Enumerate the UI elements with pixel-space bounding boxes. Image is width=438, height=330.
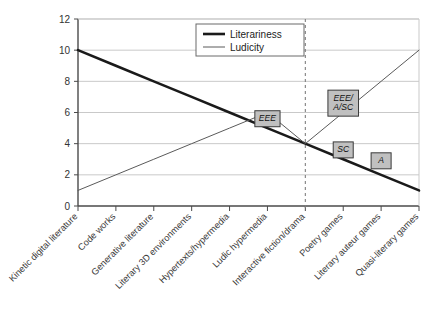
x-category-label-9: Quasi-literary games <box>353 211 420 278</box>
x-axis-category-labels: Kinetic digital literatureCode worksGene… <box>7 211 421 291</box>
x-category-label-0: Kinetic digital literature <box>7 211 79 283</box>
legend-label-literariness[interactable]: Literariness <box>230 29 282 40</box>
y-tick-label-8: 8 <box>64 76 70 87</box>
y-tick-label-10: 10 <box>59 45 71 56</box>
annotation-label-eee: EEE <box>259 113 276 123</box>
y-tick-label-0: 0 <box>64 201 70 212</box>
legend-label-ludicity[interactable]: Ludicity <box>230 42 264 53</box>
annotation-label-eee-a-sc: A/SC <box>332 102 354 112</box>
x-axis-ticks <box>78 206 419 211</box>
y-tick-label-12: 12 <box>59 14 71 25</box>
chart-legend[interactable]: LiterarinessLudicity <box>196 24 304 56</box>
annotation-label-sc: SC <box>337 144 350 154</box>
annotation-label-a: A <box>377 155 384 165</box>
x-category-label-8: Literary auteur games <box>312 211 383 282</box>
annotation-label-eee-a-sc: EEE/ <box>333 93 354 103</box>
y-axis-tick-labels: 024681012 <box>59 14 78 212</box>
x-category-label-1: Code works <box>76 211 118 253</box>
x-category-label-6: Interactive fiction/drama <box>231 211 308 288</box>
y-tick-label-4: 4 <box>64 138 70 149</box>
x-category-label-3: Literary 3D environments <box>113 211 193 291</box>
x-category-label-4: Hypertexts/hypermedia <box>157 211 231 285</box>
chart-container: 024681012 LiterarinessLudicity EEEEEE/A/… <box>0 0 438 330</box>
y-tick-label-2: 2 <box>64 169 70 180</box>
line-chart: 024681012 LiterarinessLudicity EEEEEE/A/… <box>0 0 438 330</box>
y-tick-label-6: 6 <box>64 107 70 118</box>
